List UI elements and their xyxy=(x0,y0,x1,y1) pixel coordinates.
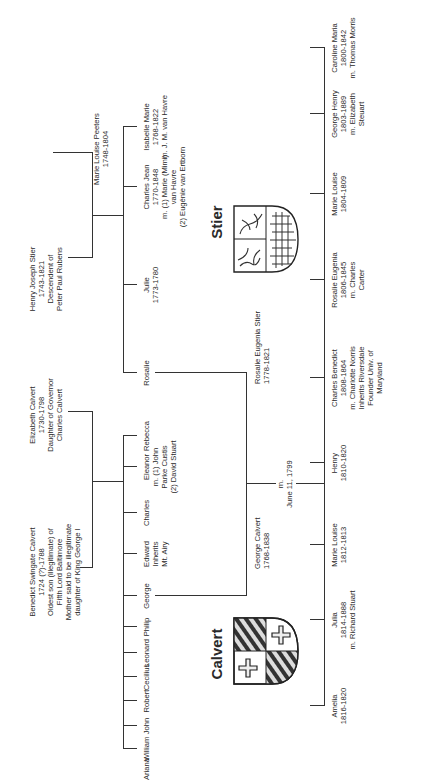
person-edward: EdwardInheritsMt. Airy xyxy=(142,541,169,567)
stier-child-line: 1770-1848 xyxy=(151,147,160,228)
stier-line: Descendent of xyxy=(46,247,55,312)
grandchild-line: Henry xyxy=(330,445,339,481)
grandchild-line: m. Charles xyxy=(348,252,357,307)
groom-line: 1768-1838 xyxy=(262,518,271,570)
calvert-child-line: Mt. Airy xyxy=(160,541,169,567)
connector-line xyxy=(123,372,137,373)
connector-line xyxy=(53,152,93,153)
groom-line: George Calvert xyxy=(253,518,262,570)
connector-line xyxy=(80,567,92,568)
grandchild-line: Founder Univ. of xyxy=(366,346,375,410)
connector-line xyxy=(123,126,137,127)
elizabeth-calvert-line: 1730-1798 xyxy=(37,378,46,451)
person-philip: Philip xyxy=(142,618,151,637)
calvert-coat-of-arms-icon xyxy=(232,616,300,686)
person-julie: Julie1773-1780 xyxy=(142,267,160,303)
benedict-calvert-line: Benedict Swingate Calvert xyxy=(28,524,37,621)
grandchild-line: Rosalie Eugenia xyxy=(330,252,339,307)
connector-line xyxy=(310,193,324,194)
benedict-calvert-line: 1724 (?)-1788 xyxy=(37,524,46,621)
connector-line xyxy=(310,47,324,48)
person-charles-jean: Charles Jean1770-1848m. (1) Marie (Mimi)… xyxy=(142,147,187,228)
connector-line xyxy=(92,215,123,216)
connector-line xyxy=(310,619,324,620)
bride-line: 1778-1821 xyxy=(262,311,271,384)
stier-child-line: Rosalie xyxy=(142,360,151,385)
stier-child-line: Julie xyxy=(142,267,151,303)
george-line xyxy=(155,595,246,596)
connector-line xyxy=(123,676,137,677)
connector-line xyxy=(92,411,93,568)
connector-line xyxy=(123,748,137,749)
bride-line: Rosalie Eugenia Stier xyxy=(253,311,262,384)
calvert-child-line: Inherits xyxy=(151,541,160,567)
stier-line: Peter Paul Rubens xyxy=(55,247,64,312)
stier-child-line: 1773-1780 xyxy=(151,267,160,303)
person-marie-louise-1812: Marie Louise1812-1813 xyxy=(330,523,348,566)
connector-line xyxy=(123,553,137,554)
marriage-date-label: m.June 11, 1799 xyxy=(276,458,294,510)
person-julia: Julia1814-1888m. Richard Stuart xyxy=(330,590,357,649)
peeters-line: Marie Louise Peeters xyxy=(92,113,101,185)
person-george-henry: George Henry1803-1889m. ElizabethSteuart xyxy=(330,90,366,138)
connector-line xyxy=(92,481,123,482)
grandchild-line: 1814-1888 xyxy=(339,590,348,649)
marriage-line: June 11, 1799 xyxy=(285,460,294,508)
calvert-child-line: Edward xyxy=(142,541,151,567)
person-cecilius: Cecilius xyxy=(142,664,151,691)
crest-title-calvert: Calvert xyxy=(208,629,225,680)
person-benedict-swingate-calvert: Benedict Swingate Calvert1724 (?)-1788Ol… xyxy=(28,524,82,621)
connector-line xyxy=(123,435,137,436)
benedict-calvert-line: Mother said to be illegitimate xyxy=(64,524,73,621)
descent-line xyxy=(296,483,324,484)
grandchild-line: 1803-1889 xyxy=(339,90,348,138)
grandchild-line: Caroline Maria xyxy=(330,17,339,78)
grandchild-line: m. Charlotte Norris xyxy=(348,346,357,410)
grandchild-line: Maryland xyxy=(375,346,384,410)
person-elizabeth-calvert: Elizabeth Calvert1730-1798Daughter of Go… xyxy=(28,378,64,451)
marriage-line: m. xyxy=(276,460,285,508)
person-ariana: Ariana xyxy=(142,758,151,780)
descent-line xyxy=(246,483,276,484)
grandchild-line: 1810-1820 xyxy=(339,445,348,481)
connector-line xyxy=(92,152,93,258)
person-marie-louise-peeters: Marie Louise Peeters1748-1804 xyxy=(92,113,110,185)
grandchild-line: Marie Louise xyxy=(330,523,339,566)
person-rosalie-eugenia: Rosalie Eugenia1806-1845m. CharlesCarter xyxy=(330,252,366,307)
grandchild-line: Inherits Riversdale xyxy=(357,346,366,410)
person-rosalie: Rosalie xyxy=(142,360,151,385)
grandchild-line: 1800-1842 xyxy=(339,17,348,78)
connector-line xyxy=(123,652,137,653)
calvert-child-line: Robert xyxy=(142,690,151,713)
stier-line: 1743-1821 xyxy=(37,247,46,312)
person-henry: Henry1810-1820 xyxy=(330,445,348,481)
calvert-child-line: Charles xyxy=(142,500,151,526)
stier-line: Henry Joseph Stier xyxy=(28,247,37,312)
grandchild-line: 1812-1813 xyxy=(339,523,348,566)
elizabeth-calvert-line: Daughter of Governor xyxy=(46,378,55,451)
calvert-child-line: John xyxy=(142,718,151,734)
connector-line xyxy=(92,216,93,217)
grandchild-line: 1816-1820 xyxy=(339,688,348,724)
connector-line xyxy=(310,544,324,545)
connector-line xyxy=(123,725,137,726)
calvert-child-line: Eleanor xyxy=(142,440,151,493)
grandchild-line: Charles Benedict xyxy=(330,346,339,410)
gen3-children-bar xyxy=(324,47,325,706)
grandchild-line: 1804-1809 xyxy=(339,172,348,215)
grandchild-line: m. Richard Stuart xyxy=(348,590,357,649)
connector-line xyxy=(123,512,137,513)
calvert-child-line: Cecilius xyxy=(142,664,151,691)
person-marie-louise-1804: Marie Louise1804-1809 xyxy=(330,172,348,215)
person-john: John xyxy=(142,718,151,734)
person-eleanor: Eleanorm. (1) JohnParke Custis(2) David … xyxy=(142,440,178,493)
stier-child-line: Charles Jean xyxy=(142,147,151,228)
connector-line xyxy=(123,186,137,187)
benedict-calvert-line: Oldest son (illegitimate) of xyxy=(46,524,55,621)
connector-line xyxy=(310,705,324,706)
rosalie-line xyxy=(155,372,246,373)
person-charles: Charles xyxy=(142,500,151,526)
person-rosalie-eugenia-stier: Rosalie Eugenia Stier1778-1821 xyxy=(253,311,271,384)
grandchild-line: m. Elizabeth xyxy=(348,90,357,138)
